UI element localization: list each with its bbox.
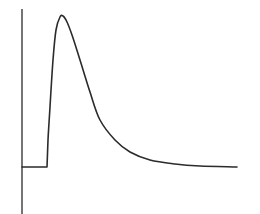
response-curve [22, 15, 237, 167]
pulse-chart [0, 0, 260, 214]
